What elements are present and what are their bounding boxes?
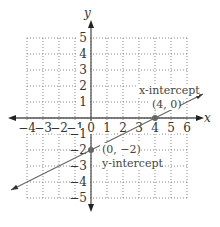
x-tick-label: 6	[183, 121, 191, 135]
y-tick-label: 3	[79, 63, 87, 77]
y-axis-down-arrow-icon	[88, 204, 94, 212]
y-axis-up-arrow-icon	[88, 20, 94, 28]
axes	[8, 20, 204, 212]
y-intercept-title: y-intercept	[101, 157, 163, 170]
y-tick-label: −2	[69, 143, 87, 157]
x-axis-label: x	[204, 111, 211, 125]
x-tick-label: 4	[151, 121, 159, 135]
y-tick-label: 4	[79, 47, 87, 61]
y-tick-label: −3	[69, 159, 87, 173]
y-axis-label: y	[83, 6, 91, 20]
intercept-point	[152, 115, 158, 121]
y-tick-label: −4	[69, 175, 87, 189]
intercept-point	[88, 147, 94, 153]
y-tick-label: 5	[79, 31, 87, 45]
y-intercept-point-label: (0, −2)	[102, 143, 141, 156]
x-tick-label: 0	[87, 121, 95, 135]
y-tick-label: 2	[79, 79, 87, 93]
x-axis-right-arrow-icon	[196, 115, 204, 121]
line-arrow-icon	[11, 185, 18, 190]
x-intercept-title: x-intercept	[139, 84, 200, 97]
x-axis-left-arrow-icon	[8, 115, 16, 121]
y-tick-label: 1	[79, 95, 87, 109]
coordinate-plane: −4−3−2−1012345654321−1−2−3−4−5 y x x-int…	[0, 0, 220, 227]
x-tick-label: 1	[103, 121, 111, 135]
x-tick-label: 5	[167, 121, 175, 135]
y-tick-label: −1	[69, 127, 87, 141]
y-tick-label: −5	[69, 191, 87, 205]
x-intercept-point-label: (4, 0)	[152, 98, 182, 111]
